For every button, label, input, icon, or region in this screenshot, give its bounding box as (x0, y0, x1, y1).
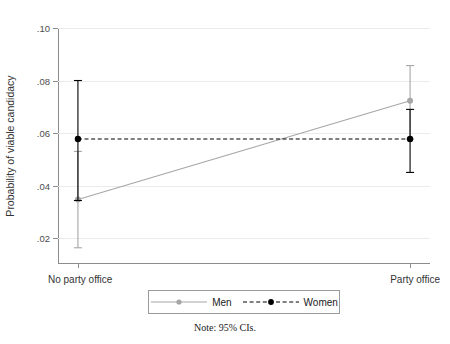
y-axis-title: Probability of viable candidacy (4, 75, 16, 216)
legend-key-women (242, 296, 300, 308)
legend-key-men (150, 296, 208, 308)
x-tick-party-office (410, 263, 411, 268)
y-tick-label: .10 (37, 23, 50, 34)
x-axis-label-party-office: Party office (390, 274, 440, 285)
legend-label-women: Women (304, 297, 338, 308)
data-point (407, 136, 413, 142)
series-layer (58, 28, 430, 263)
x-tick-no-party-office (78, 263, 79, 268)
y-tick-label: .04 (37, 180, 50, 191)
y-tick-label: .02 (37, 233, 50, 244)
y-tick-label: .08 (37, 75, 50, 86)
x-axis-line (58, 263, 430, 264)
data-point (407, 98, 413, 104)
legend-item-women[interactable]: Women (242, 296, 338, 308)
series-line (78, 101, 410, 200)
series-women (74, 81, 414, 201)
x-axis-label-no-party-office: No party office (48, 274, 112, 285)
plot-area: Probability of viable candidacy .02.04.0… (58, 28, 430, 263)
legend-item-men[interactable]: Men (150, 296, 231, 308)
chart-canvas: Probability of viable candidacy .02.04.0… (0, 0, 450, 344)
legend-label-men: Men (212, 297, 231, 308)
data-point (75, 136, 81, 142)
series-men (74, 66, 414, 248)
chart-note: Note: 95% CIs. (0, 322, 450, 333)
y-tick-label: .06 (37, 128, 50, 139)
chart-legend: Men Women (148, 290, 340, 314)
